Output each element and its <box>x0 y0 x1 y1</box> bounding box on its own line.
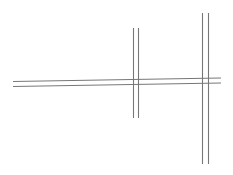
horizontal-road <box>13 78 221 87</box>
vertical-road-middle <box>134 28 139 118</box>
roads-layer <box>13 13 221 164</box>
road-map <box>0 0 233 175</box>
horizontal-road-edge-2 <box>13 83 221 87</box>
horizontal-road-edge-1 <box>13 78 221 82</box>
vertical-road-right <box>203 13 209 164</box>
